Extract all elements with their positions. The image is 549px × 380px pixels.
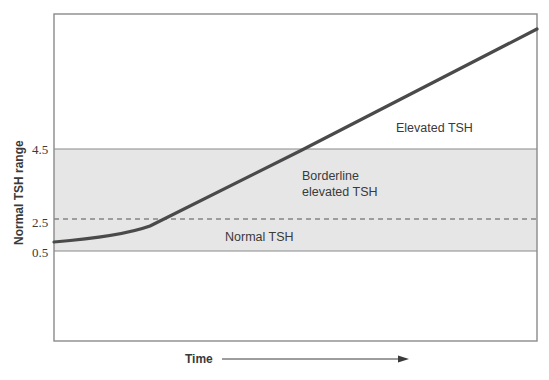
elevated-tsh-label: Elevated TSH <box>396 121 473 135</box>
borderline-label-line1: Borderline <box>302 169 359 183</box>
normal-tsh-label: Normal TSH <box>225 230 294 244</box>
tick-4-5: 4.5 <box>32 142 48 157</box>
tick-2-5: 2.5 <box>32 215 48 230</box>
borderline-label-line2: elevated TSH <box>302 185 378 199</box>
normal-range-band <box>54 149 537 251</box>
tick-0-5: 0.5 <box>32 245 48 260</box>
y-axis-label: Normal TSH range <box>12 140 26 245</box>
time-arrow-head-icon <box>398 356 409 363</box>
x-axis-label: Time <box>185 352 213 366</box>
tsh-diagram: Elevated TSH Borderline elevated TSH Nor… <box>0 0 549 380</box>
